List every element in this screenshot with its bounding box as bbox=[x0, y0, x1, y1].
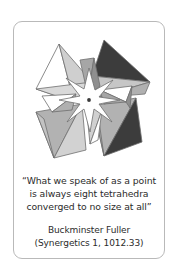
quote-line-2: is always eight tetrahedra bbox=[18, 187, 160, 200]
page-root: “What we speak of as a point is always e… bbox=[0, 0, 180, 275]
attribution-source: (Synergetics 1, 1012.33) bbox=[18, 237, 160, 250]
tetrahedra-figure bbox=[14, 24, 164, 174]
tetrahedron-inner-left bbox=[42, 94, 76, 112]
center-point-dot bbox=[87, 98, 91, 102]
quote-line-1: “What we speak of as a point bbox=[18, 174, 160, 187]
attribution: Buckminster Fuller (Synergetics 1, 1012.… bbox=[18, 224, 160, 250]
quote-card: “What we speak of as a point is always e… bbox=[13, 21, 165, 259]
tetrahedra-figure-svg bbox=[14, 24, 164, 174]
quote-line-3: converged to no size at all” bbox=[18, 200, 160, 213]
quote-text: “What we speak of as a point is always e… bbox=[18, 174, 160, 214]
attribution-author: Buckminster Fuller bbox=[18, 224, 160, 237]
